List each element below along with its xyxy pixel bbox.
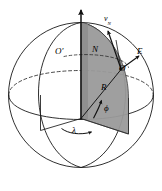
label-velocity-north: vN (104, 15, 111, 25)
label-velocity-north-subscript: N (108, 21, 111, 26)
sphere-diagram-canvas (0, 0, 162, 191)
label-latitude-angle: ϕ (104, 104, 109, 113)
label-origin-prime: O′ (55, 47, 63, 56)
sphere-diagram-figure: vN O′ N E O R ϕ λ (0, 0, 162, 191)
label-radius: R (101, 83, 107, 92)
label-east-point: E (137, 47, 143, 56)
label-longitude-angle: λ (72, 126, 76, 135)
label-north-point: N (92, 45, 98, 54)
label-observer-point: O (119, 64, 126, 73)
